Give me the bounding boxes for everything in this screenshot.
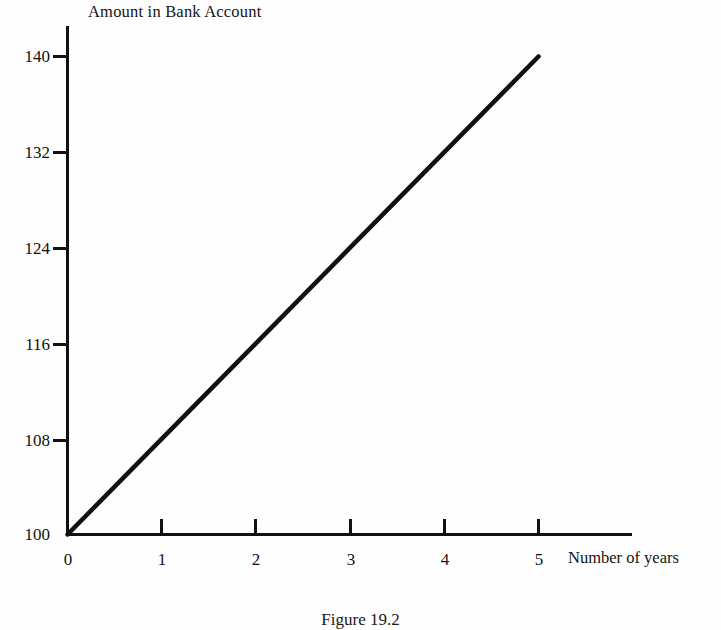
x-axis-label: Number of years xyxy=(568,548,679,568)
x-tick-label-3: 3 xyxy=(338,551,364,568)
x-tick-label-1: 1 xyxy=(149,551,175,568)
y-tick-label-108: 108 xyxy=(4,432,50,449)
y-tick-label-116: 116 xyxy=(4,336,50,353)
y-axis-ticks xyxy=(53,57,67,441)
y-tick-label-100: 100 xyxy=(4,526,50,543)
figure-caption: Figure 19.2 xyxy=(0,610,721,630)
x-tick-label-0: 0 xyxy=(55,551,81,568)
x-tick-label-4: 4 xyxy=(432,551,458,568)
y-tick-label-132: 132 xyxy=(4,144,50,161)
x-axis-ticks xyxy=(162,519,539,534)
y-tick-label-124: 124 xyxy=(4,240,50,257)
y-tick-label-140: 140 xyxy=(4,48,50,65)
x-tick-label-5: 5 xyxy=(526,551,552,568)
x-tick-label-2: 2 xyxy=(243,551,269,568)
data-series-line xyxy=(68,57,539,535)
